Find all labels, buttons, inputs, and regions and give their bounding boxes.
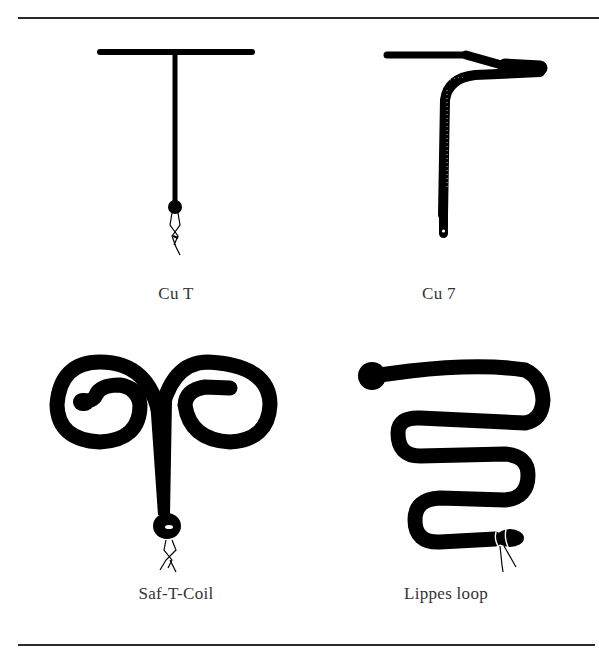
bottom-rule (18, 644, 595, 646)
figure-cu-7: Cu 7 (300, 0, 599, 320)
figure-cu-t: Cu T (0, 0, 300, 320)
saf-t-coil-label: Saf-T-Coil (138, 584, 213, 604)
figure-lippes-loop: Lippes loop (300, 330, 599, 630)
lippes-loop-label: Lippes loop (404, 584, 488, 604)
cu-7-label: Cu 7 (422, 284, 456, 304)
cu-t-illustration (0, 0, 300, 320)
cu-t-label: Cu T (158, 284, 193, 304)
figure-saf-t-coil: Saf-T-Coil (0, 330, 300, 630)
cu-7-illustration (300, 0, 599, 320)
